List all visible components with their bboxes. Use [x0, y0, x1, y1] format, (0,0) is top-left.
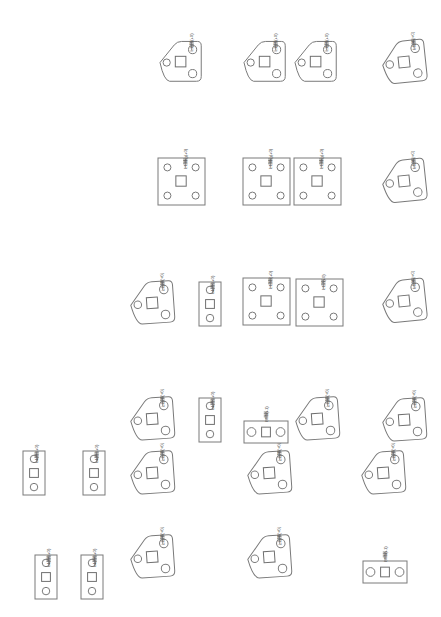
- square-plate-outline-icon: L1 6kg(+0): [155, 155, 212, 212]
- part-horizontal-bar[interactable]: L4 5(+1): [360, 550, 414, 586]
- square-plate-outline-icon: L1 6kg(+0): [291, 155, 348, 212]
- svg-text:L4 5(+1): L4 5(+1): [383, 546, 388, 562]
- triangular-plate-outline-icon: L1 75(+0): [376, 33, 441, 99]
- svg-text:L1 75(+0): L1 75(+0): [410, 150, 417, 169]
- part-square-plate[interactable]: L1 50(+0): [240, 275, 297, 332]
- triangular-plate-outline-icon: L1 76(+0): [125, 445, 189, 509]
- part-triangular-plate[interactable]: L1 75(+0): [376, 33, 441, 99]
- svg-text:L1 90(+0): L1 90(+0): [94, 444, 99, 463]
- svg-text:L1 75(+0): L1 75(+0): [273, 33, 278, 52]
- drawing-sheet: L1 75(+0)L1 75(+0)L1 75(+0)L1 75(+0)L1 6…: [0, 0, 441, 617]
- part-square-plate[interactable]: L1 6kg(+0): [240, 155, 297, 212]
- triangular-plate-outline-icon: L1 76(+0): [242, 445, 306, 509]
- square-plate-outline-icon: L1 7(+0): [293, 276, 350, 333]
- vertical-bar-outline-icon: L1 94(+0): [32, 552, 64, 606]
- svg-text:L1 6kg(+0): L1 6kg(+0): [319, 148, 324, 169]
- svg-text:L1 75(+0): L1 75(+0): [189, 33, 194, 52]
- part-vertical-bar[interactable]: L1 94(+0): [32, 552, 64, 606]
- part-vertical-bar[interactable]: L1 94(+0): [78, 552, 110, 606]
- horizontal-bar-outline-icon: L4 5(+1): [241, 410, 295, 446]
- svg-text:L1 6kg(+0): L1 6kg(+0): [268, 148, 273, 169]
- triangular-plate-outline-icon: L1 75(+0): [291, 37, 349, 95]
- svg-text:L1 76(+0): L1 76(+0): [159, 388, 165, 407]
- part-square-plate[interactable]: L1 6kg(+0): [155, 155, 212, 212]
- part-triangular-plate[interactable]: L1 76(+0): [242, 445, 306, 509]
- part-square-plate[interactable]: L1 6kg(+0): [291, 155, 348, 212]
- part-triangular-plate[interactable]: L1 75(+0): [376, 152, 441, 218]
- vertical-bar-outline-icon: L1 90(+0): [20, 448, 52, 502]
- part-triangular-plate[interactable]: L1 75(+0): [156, 37, 214, 95]
- part-vertical-bar[interactable]: L1 38(+0): [196, 395, 228, 449]
- vertical-bar-outline-icon: L1 38(+0): [196, 279, 228, 333]
- svg-text:L1 38(+0): L1 38(+0): [210, 275, 215, 294]
- triangular-plate-outline-icon: L1 75(+0): [156, 37, 214, 95]
- part-triangular-plate[interactable]: L1 75(+0): [376, 272, 441, 338]
- part-triangular-plate[interactable]: L1 76(+0): [125, 445, 189, 509]
- triangular-plate-outline-icon: L1 75(+0): [376, 152, 441, 218]
- svg-text:L4 5(+1): L4 5(+1): [264, 406, 269, 422]
- part-triangular-plate[interactable]: L1 76(+0): [125, 529, 189, 593]
- svg-text:L1 28(+0): L1 28(+0): [159, 272, 165, 291]
- triangular-plate-outline-icon: L1 75(+0): [240, 37, 298, 95]
- part-triangular-plate[interactable]: L1 75(+0): [291, 37, 349, 95]
- part-vertical-bar[interactable]: L1 38(+0): [196, 279, 228, 333]
- svg-text:L1 50(+0): L1 50(+0): [268, 270, 273, 289]
- svg-text:L1 76(+0): L1 76(+0): [411, 389, 417, 408]
- part-triangular-plate[interactable]: L1 28(+0): [125, 275, 189, 339]
- part-vertical-bar[interactable]: L1 90(+0): [20, 448, 52, 502]
- svg-text:L1 76(+0): L1 76(+0): [159, 526, 165, 545]
- vertical-bar-outline-icon: L1 90(+0): [80, 448, 112, 502]
- svg-text:L1 94(+0): L1 94(+0): [46, 548, 51, 567]
- svg-text:L1 35(+0): L1 35(+0): [324, 388, 330, 407]
- part-vertical-bar[interactable]: L1 90(+0): [80, 448, 112, 502]
- svg-text:L1 6kg(+0): L1 6kg(+0): [183, 148, 188, 169]
- vertical-bar-outline-icon: L1 38(+0): [196, 395, 228, 449]
- part-triangular-plate[interactable]: L1 76(+0): [242, 529, 306, 593]
- triangular-plate-outline-icon: L1 76(+0): [242, 529, 306, 593]
- horizontal-bar-outline-icon: L4 5(+1): [360, 550, 414, 586]
- svg-text:L1 38(+0): L1 38(+0): [210, 391, 215, 410]
- part-triangular-plate[interactable]: L1 76(+0): [356, 445, 420, 509]
- part-square-plate[interactable]: L1 7(+0): [293, 276, 350, 333]
- triangular-plate-outline-icon: L1 75(+0): [376, 272, 441, 338]
- vertical-bar-outline-icon: L1 94(+0): [78, 552, 110, 606]
- svg-text:L1 75(+0): L1 75(+0): [410, 31, 417, 50]
- part-triangular-plate[interactable]: L1 75(+0): [240, 37, 298, 95]
- square-plate-outline-icon: L1 50(+0): [240, 275, 297, 332]
- triangular-plate-outline-icon: L1 76(+0): [356, 445, 420, 509]
- svg-text:L1 7(+0): L1 7(+0): [321, 274, 326, 290]
- svg-text:L1 75(+0): L1 75(+0): [410, 270, 417, 289]
- svg-text:L1 90(+0): L1 90(+0): [34, 444, 39, 463]
- svg-text:L1 76(+0): L1 76(+0): [276, 526, 282, 545]
- square-plate-outline-icon: L1 6kg(+0): [240, 155, 297, 212]
- part-horizontal-bar[interactable]: L4 5(+1): [241, 410, 295, 446]
- triangular-plate-outline-icon: L1 28(+0): [125, 275, 189, 339]
- svg-text:L1 94(+0): L1 94(+0): [92, 548, 97, 567]
- triangular-plate-outline-icon: L1 76(+0): [125, 529, 189, 593]
- svg-text:L1 75(+0): L1 75(+0): [324, 33, 329, 52]
